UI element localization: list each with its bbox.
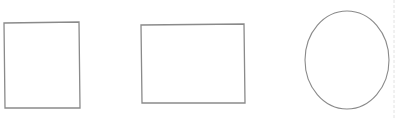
ellipse-shape: [305, 11, 389, 109]
tall-rectangle-shape: [4, 22, 80, 108]
diagram-canvas: [0, 0, 401, 119]
wide-rectangle-shape: [141, 24, 245, 103]
